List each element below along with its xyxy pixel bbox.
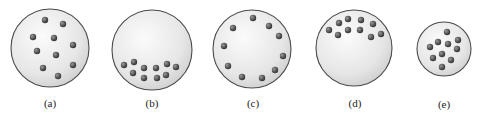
container-circle [316,10,392,86]
particle [455,37,461,43]
particle [444,29,450,35]
particle [130,70,136,76]
particle [40,65,46,71]
panel-e: (e) [417,22,471,111]
panel-label: (a) [44,97,57,110]
particle [163,72,169,78]
panel-b: (b) [112,10,192,110]
particle [448,57,454,63]
particle [357,27,363,33]
particle-distribution-diagram: (a)(b)(c)(d)(e) [0,0,480,117]
particle [225,63,231,69]
particle [250,15,256,21]
particle [326,27,332,33]
particle [435,39,441,45]
particle [154,75,160,81]
particle [276,33,282,39]
panel-a: (a) [11,9,89,110]
panel-label: (e) [438,98,451,111]
particle [378,31,384,37]
particle [345,16,351,22]
panel-c: (c) [213,10,291,110]
particle [370,21,376,27]
particle [173,64,179,70]
particle [141,75,147,81]
particle [221,43,227,49]
particle [53,52,59,58]
panel-label: (d) [349,97,362,110]
particle [439,51,445,57]
particle [454,46,460,52]
particle [335,32,341,38]
particle [51,35,57,41]
particle [121,62,127,68]
particle [358,17,364,23]
particle [131,59,137,65]
particle [30,34,36,40]
panel-label: (c) [247,97,260,110]
particle [70,42,76,48]
container-circle [112,10,192,90]
particle [336,20,342,26]
panel-d: (d) [316,10,392,110]
particle [345,27,351,33]
particle [60,21,66,27]
particle [445,41,451,47]
particle [427,44,433,50]
particle [34,48,40,54]
particle [368,34,374,40]
particle [266,23,272,29]
particle [55,73,61,79]
particle [42,17,48,23]
particle [239,74,245,80]
panel-label: (b) [146,97,159,110]
particle [280,53,286,59]
particle [164,61,170,67]
container-circle [11,9,89,87]
particle [439,64,445,70]
particle [141,65,147,71]
particle [153,65,159,71]
particle [430,55,436,61]
particle [230,25,236,31]
particle [70,62,76,68]
particle [272,67,278,73]
particle [259,75,265,81]
